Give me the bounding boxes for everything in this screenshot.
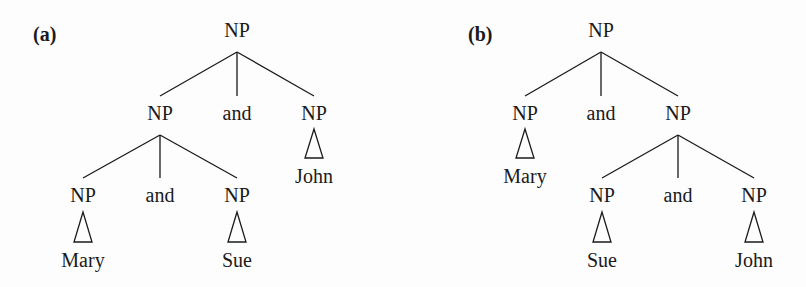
node-np-sue-b: NP — [589, 185, 615, 205]
node-np-john-b: NP — [741, 185, 767, 205]
node-np-mary-a: NP — [70, 185, 96, 205]
tree-edges — [0, 0, 806, 287]
node-and-b2: and — [664, 185, 693, 205]
node-np-inner-a: NP — [147, 103, 173, 123]
leaf-sue-b: Sue — [587, 250, 617, 270]
leaf-sue-a: Sue — [222, 250, 252, 270]
panel-label-a: (a) — [33, 24, 56, 44]
node-np-sue-a: NP — [224, 185, 250, 205]
leaf-mary-b: Mary — [503, 166, 546, 186]
leaf-john-a: John — [295, 166, 333, 186]
leaf-john-b: John — [735, 250, 773, 270]
node-and-b1: and — [587, 103, 616, 123]
node-np-mary-b: NP — [512, 103, 538, 123]
leaf-mary-a: Mary — [61, 250, 104, 270]
node-and-a1: and — [223, 103, 252, 123]
node-np-inner-b: NP — [665, 103, 691, 123]
node-root-np-b: NP — [588, 20, 614, 40]
panel-label-b: (b) — [468, 24, 492, 44]
node-np-john-a: NP — [301, 103, 327, 123]
node-and-a2: and — [146, 185, 175, 205]
node-root-np-a: NP — [224, 20, 250, 40]
